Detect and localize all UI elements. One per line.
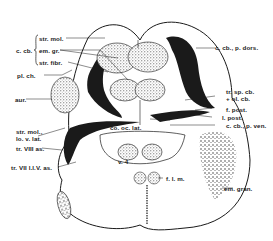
upper-right-lobe [128,42,168,72]
label-str-mol: str. mol. [39,35,64,42]
label-str-fibr: str. fibr. [39,59,62,66]
label-str-mol-lo-v-lat-2: lo. v. lat. [16,135,41,142]
label-em-gran: em. gran. [224,185,252,192]
lower-right-lobe [142,144,162,160]
auricle [51,77,79,113]
label-tr-sp-cb-2: + ol. cb. [226,95,250,102]
right-fiber-band [166,37,215,109]
small-side-lobe [55,190,74,220]
label-tr-vii-l-i-v-as: tr. VII l.l.V. as. [11,164,52,171]
label-tr-viii-as: tr. VIII as. [16,145,44,152]
label-em-gr: em. gr. [39,47,60,54]
mid-right-lobe [135,79,165,101]
fourth-ventricle [100,131,185,164]
flm-left [134,172,146,184]
label-f-l-m: f. l. m. [166,175,185,182]
right-fiber-lower [150,110,210,122]
label-aur: aur. [15,96,26,103]
label-v4: v. 4 [118,158,128,165]
label-pl-ch: pl. ch. [17,72,36,79]
label-l-post: l. post. [222,114,243,121]
label-str-mol-lo-v-lat-1: str. mol., [16,128,42,135]
label-c-cb-p-dors: c. cb., p. dors. [215,44,258,51]
label-c-cb-p-ven: c. cb., p. ven. [226,122,266,129]
label-co-oc-lat: co. oc. lat. [110,124,141,131]
label-tr-sp-cb-1: tr. sp. cb. [226,88,254,95]
label-f-post: f. post. [226,106,247,113]
label-c-cb: c. cb. [16,47,32,54]
